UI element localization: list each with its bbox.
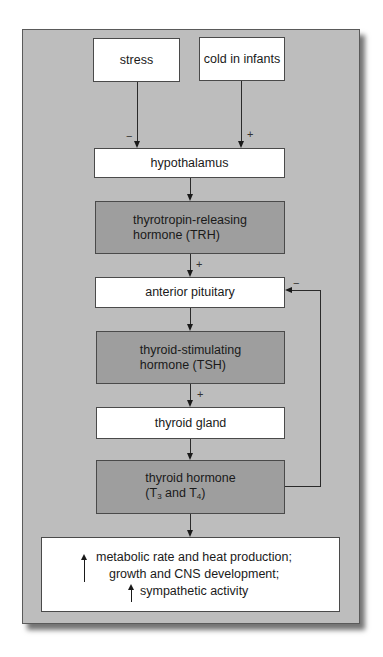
arrow-head-icon	[187, 194, 193, 201]
thyroid-hormone-box: thyroid hormone (T3 and T4)	[96, 460, 285, 514]
cold-sign: +	[247, 129, 253, 140]
hypothalamus-label: hypothalamus	[151, 156, 229, 171]
cold-arrow-line	[241, 81, 242, 142]
tsh-line2: hormone (TSH)	[140, 358, 241, 373]
tsh-sign: +	[197, 389, 203, 400]
trh-line2: hormone (TRH)	[133, 228, 247, 243]
anterior-pituitary-box: anterior pituitary	[95, 277, 285, 308]
trh-to-pituitary-line	[190, 254, 191, 271]
tsh-line1: thyroid-stimulating	[140, 343, 241, 358]
arrow-head-icon	[187, 324, 193, 331]
feedback-arrow-head-icon	[285, 287, 292, 293]
feedback-sign: −	[293, 278, 299, 289]
th-prefix: (T	[145, 486, 157, 500]
tsh-box: thyroid-stimulating hormone (TSH)	[96, 331, 285, 384]
arrow-head-icon	[187, 400, 193, 407]
stress-sign: −	[126, 131, 132, 142]
thyroid-hormone-text: thyroid hormone (T3 and T4)	[145, 471, 235, 504]
tsh-to-thyroid-line	[190, 384, 191, 401]
effect-metabolic-rate: metabolic rate and heat production;	[96, 550, 292, 565]
stress-arrow-line	[137, 82, 138, 142]
hormone-to-effects-line	[190, 514, 191, 531]
effect-growth: growth and CNS development;	[109, 567, 279, 582]
trh-text: thyrotropin-releasing hormone (TRH)	[133, 213, 247, 243]
pituitary-to-tsh-line	[190, 308, 191, 325]
thyroid-gland-box: thyroid gland	[96, 407, 285, 439]
increase-arrow-icon	[84, 559, 85, 582]
cold-label: cold in infants	[204, 52, 280, 67]
arrow-head-icon	[187, 530, 193, 537]
cold-arrow-head-icon	[238, 141, 244, 148]
stress-arrow-head-icon	[134, 141, 140, 148]
feedback-line-bottom	[285, 486, 321, 487]
th-line2: (T3 and T4)	[145, 486, 235, 504]
th-suffix: )	[201, 486, 205, 500]
effect-sympathetic: sympathetic activity	[140, 584, 248, 599]
feedback-line-vertical	[320, 290, 321, 487]
hypothalamus-to-trh-line	[190, 178, 191, 195]
tsh-text: thyroid-stimulating hormone (TSH)	[140, 343, 241, 373]
stress-box: stress	[93, 38, 180, 82]
trh-sign: +	[196, 259, 202, 270]
increase-arrow-icon	[131, 589, 132, 602]
thyroid-to-hormone-line	[190, 439, 191, 454]
anterior-pituitary-label: anterior pituitary	[145, 285, 235, 300]
effects-box: metabolic rate and heat production; grow…	[41, 537, 340, 612]
arrow-head-icon	[187, 453, 193, 460]
trh-line1: thyrotropin-releasing	[133, 213, 247, 228]
stress-label: stress	[120, 53, 153, 68]
th-line1: thyroid hormone	[145, 471, 235, 486]
arrow-head-icon	[187, 270, 193, 277]
cold-in-infants-box: cold in infants	[199, 37, 285, 81]
hypothalamus-box: hypothalamus	[94, 148, 285, 178]
trh-box: thyrotropin-releasing hormone (TRH)	[95, 201, 285, 254]
th-mid: and T	[162, 486, 197, 500]
feedback-line-top	[291, 290, 321, 291]
thyroid-gland-label: thyroid gland	[155, 416, 227, 431]
